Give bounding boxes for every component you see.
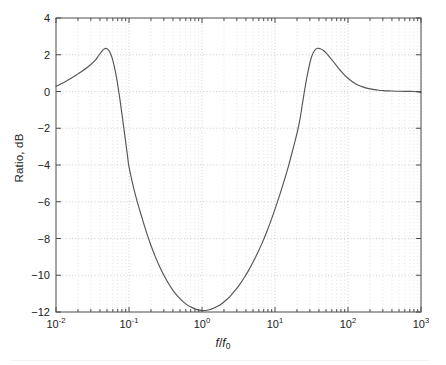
grid-layer — [56, 18, 421, 312]
y-tick-label: −4 — [37, 159, 50, 171]
y-tick-label: 2 — [44, 49, 50, 61]
x-axis-title-subscript: 0 — [226, 341, 231, 351]
line-chart-svg: 10-210-1100101102103 420−2−4−6−8−10−12 — [0, 0, 446, 365]
y-tick-label: −6 — [37, 196, 50, 208]
x-tick-label: 103 — [413, 316, 429, 330]
y-tick-label: −12 — [31, 306, 50, 318]
y-axis-title: Ratio, dB — [13, 113, 25, 203]
y-tick-label: 0 — [44, 86, 50, 98]
y-tick-label: −2 — [37, 122, 50, 134]
data-series-layer — [56, 48, 421, 310]
x-tick-label: 10-2 — [46, 316, 65, 330]
x-tick-labels: 10-210-1100101102103 — [46, 316, 429, 330]
x-axis-title: f/f0 — [0, 336, 446, 351]
footer-rule — [10, 360, 430, 361]
x-tick-label: 102 — [340, 316, 356, 330]
plot-area: 10-210-1100101102103 420−2−4−6−8−10−12 — [0, 0, 446, 365]
x-tick-label: 100 — [194, 316, 210, 330]
y-tick-label: −10 — [31, 269, 50, 281]
y-tick-label: −8 — [37, 233, 50, 245]
x-tick-label: 101 — [267, 316, 283, 330]
x-tick-label: 10-1 — [119, 316, 138, 330]
figure-container: 10-210-1100101102103 420−2−4−6−8−10−12 R… — [0, 0, 446, 365]
y-tick-label: 4 — [44, 12, 50, 24]
y-tick-labels: 420−2−4−6−8−10−12 — [31, 12, 50, 318]
ratio-curve — [56, 48, 421, 310]
